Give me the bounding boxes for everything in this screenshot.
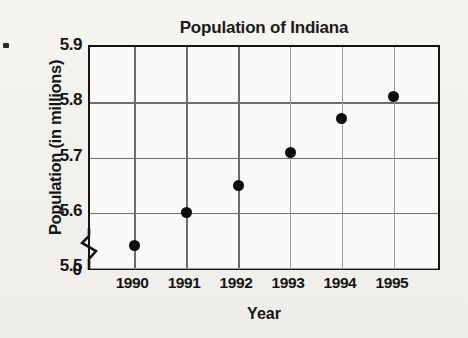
data-point-1992: [233, 180, 244, 191]
chart-title: Population of Indiana: [88, 18, 440, 38]
data-point-1990: [129, 240, 140, 251]
gridline-y-5.6: [90, 213, 438, 215]
y-tick-label-5.7: 5.7: [20, 146, 82, 166]
gridline-x-1991: [186, 47, 188, 268]
x-axis-title: Year: [88, 305, 440, 323]
data-point-1991: [181, 207, 192, 218]
x-tick-label-1995: 1995: [356, 274, 428, 292]
y-tick-label-zero: 0: [20, 260, 82, 280]
scan-artifact-mark: [3, 43, 9, 48]
y-tick-label-5.9: 5.9: [20, 35, 82, 55]
data-point-1995: [388, 91, 399, 102]
gridline-y-5.8: [90, 102, 438, 104]
plot-area: [88, 45, 440, 270]
gridline-y-5.7: [90, 158, 438, 160]
gridline-x-1990: [134, 47, 136, 268]
gridline-x-1992: [238, 47, 240, 268]
gridline-x-1994: [342, 47, 343, 268]
data-point-1994: [336, 113, 347, 124]
y-tick-label-5.6: 5.6: [20, 201, 82, 221]
y-tick-label-5.8: 5.8: [20, 90, 82, 110]
data-point-1993: [285, 147, 296, 158]
gridline-x-1993: [290, 47, 291, 268]
axis-break-icon: [80, 228, 98, 270]
gridline-x-1995: [394, 47, 395, 268]
gridline-y-5.5: [90, 268, 438, 269]
